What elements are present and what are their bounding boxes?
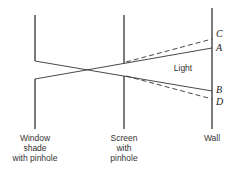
window-shade-label: Window shade with pinhole — [5, 133, 65, 163]
light-label: Light — [168, 63, 198, 73]
screen-label-line2: with — [99, 143, 149, 153]
point-b-label: B — [216, 84, 222, 95]
window-shade-label-line3: with pinhole — [5, 153, 65, 163]
point-c-label: C — [216, 28, 223, 39]
screen-label-line1: Screen — [99, 133, 149, 143]
dashed-ray-to-D — [126, 76, 212, 99]
window-shade-label-line1: Window — [5, 133, 65, 143]
screen-label: Screen with pinhole — [99, 133, 149, 163]
point-a-label: A — [216, 42, 222, 53]
window-shade-label-line2: shade — [5, 143, 65, 153]
screen-label-line3: pinhole — [99, 153, 149, 163]
wall-label: Wall — [197, 133, 227, 143]
point-d-label: D — [216, 96, 223, 107]
